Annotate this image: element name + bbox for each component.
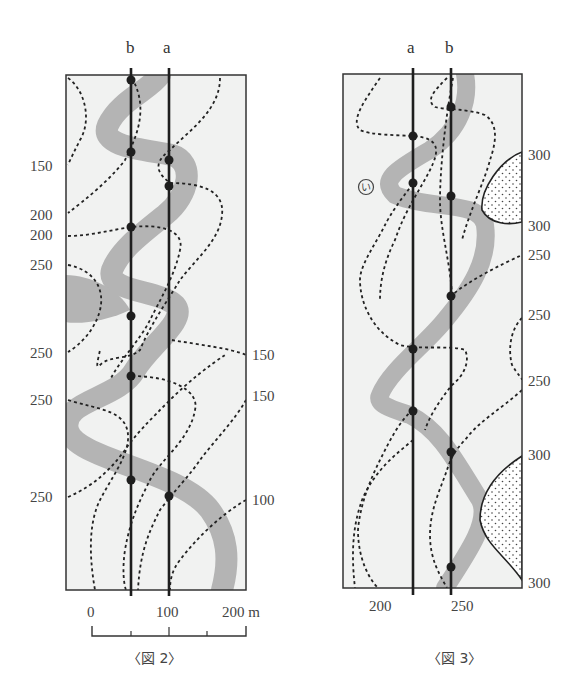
fig3-bottom-label: 250 [451,598,474,614]
fig2-contour-label: 150 [30,158,53,174]
fig3-caption: 〈図 3〉 [427,650,482,666]
scale-tick-100: 100 [156,604,179,620]
fig2-contour-label: 150 [252,388,275,404]
fig2-contour-label: 200 [30,227,53,243]
fig2-contour-label: 250 [30,345,53,361]
figure-3: い a b 300 300 250 250 250 300 300 200 25… [343,38,551,666]
diagram-canvas: b a 150 200 200 250 250 250 250 150 150 … [0,0,588,697]
svg-text:い: い [361,182,371,193]
fig2-label-b: b [126,38,135,57]
fig2-contour-label: 150 [252,347,275,363]
fig3-contour-label: 300 [528,147,551,163]
fig3-contour-label: 300 [528,447,551,463]
fig3-bottom-label: 200 [369,598,392,614]
fig2-caption: 〈図 2〉 [127,650,182,666]
fig3-label-a: a [407,38,415,57]
fig3-contour-label: 250 [528,307,551,323]
fig2-label-a: a [163,38,171,57]
fig3-contour-label: 300 [528,575,551,591]
fig3-label-b: b [445,38,454,57]
fig3-contour-label: 300 [528,218,551,234]
scale-tick-200: 200 m [222,604,260,620]
fig2-contour-label: 250 [30,489,53,505]
fig2-contour-label: 250 [30,257,53,273]
fig2-scale-bar: 0 100 200 m [87,604,260,636]
fig3-contour-label: 250 [528,373,551,389]
figure-2: b a 150 200 200 250 250 250 250 150 150 … [30,38,275,666]
fig2-contour-label: 250 [30,392,53,408]
fig2-contour-label: 200 [30,207,53,223]
scale-tick-0: 0 [87,604,95,620]
fig2-contour-label: 100 [252,492,275,508]
fig3-contour-label: 250 [528,247,551,263]
